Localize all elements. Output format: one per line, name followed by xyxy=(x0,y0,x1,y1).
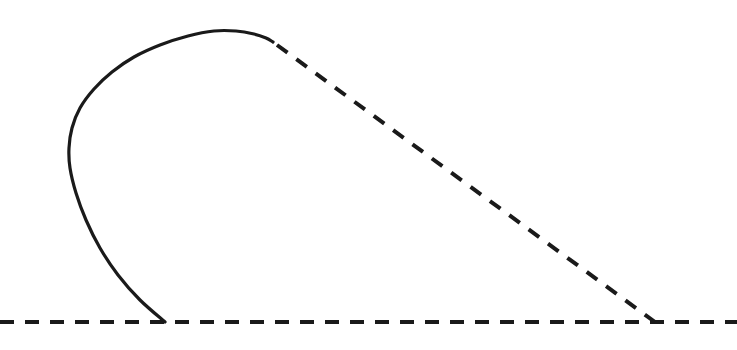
line-drawing-figure xyxy=(0,0,737,350)
figure-canvas xyxy=(0,0,737,350)
figure-background xyxy=(0,0,737,350)
